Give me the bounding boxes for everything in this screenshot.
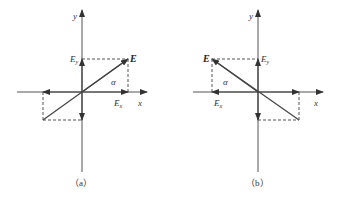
- y-axis-label: y: [248, 11, 253, 21]
- ex-label: Ex: [213, 98, 223, 109]
- panel-a: y x E Ey Ex α （a）: [17, 10, 147, 188]
- angle-alpha-label: α: [111, 77, 116, 87]
- vector-e-label: E: [129, 53, 137, 64]
- y-axis-label: y: [72, 11, 77, 21]
- panel-b: y x E Ey Ex α （b）: [193, 10, 323, 188]
- vector-e-head: [82, 59, 128, 92]
- vector-e-label: E: [202, 53, 210, 64]
- caption-a: （a）: [70, 178, 92, 188]
- x-axis-label: x: [137, 98, 142, 108]
- ey-label: Ey: [260, 54, 270, 65]
- vector-e-head: [212, 59, 258, 92]
- angle-alpha-label: α: [223, 77, 228, 87]
- ex-label: Ex: [113, 98, 123, 109]
- diagram-canvas: y x E Ey Ex α （a） y x E Ey Ex α （b）: [0, 0, 337, 204]
- caption-b: （b）: [246, 178, 269, 188]
- x-axis-label: x: [313, 98, 318, 108]
- ey-label: Ey: [69, 54, 79, 65]
